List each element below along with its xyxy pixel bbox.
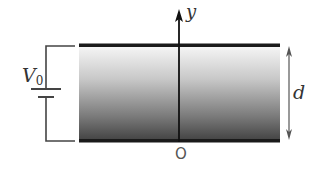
capacitor-diagram <box>0 0 322 171</box>
battery-circuit <box>46 46 75 141</box>
y-axis-label: y <box>186 3 196 21</box>
origin-label: O <box>175 147 187 162</box>
voltage-label: V0 <box>22 66 43 87</box>
separation-label: d <box>293 83 305 102</box>
